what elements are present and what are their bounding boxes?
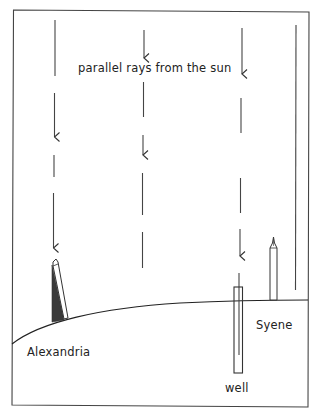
ray-column-syene: [296, 25, 297, 290]
rays-label: parallel rays from the sun: [78, 61, 231, 75]
well-shaft: [234, 287, 243, 373]
ray-column-alexandria: [54, 20, 56, 248]
well-label: well: [225, 381, 249, 395]
syene-label: Syene: [256, 318, 293, 332]
alexandria-obelisk: [52, 259, 68, 322]
syene-obelisk: [270, 237, 277, 300]
ray-column-well: [239, 28, 242, 355]
well: [234, 287, 243, 373]
alexandria-label: Alexandria: [27, 345, 90, 359]
syene-obelisk-body: [270, 237, 277, 300]
